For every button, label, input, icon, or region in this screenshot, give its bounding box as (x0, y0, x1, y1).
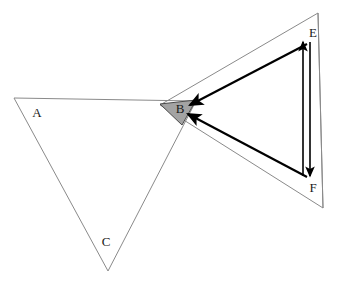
vertex-label-c: C (102, 234, 111, 249)
arrow-f-to-b (188, 114, 307, 177)
vertex-label-b: B (176, 101, 185, 116)
geometry-diagram: A B C E F (0, 0, 337, 286)
vertex-label-a: A (32, 105, 42, 120)
geometry-canvas: A B C E F (0, 0, 337, 286)
vertex-label-f: F (309, 180, 316, 195)
segment-ef-outline (318, 13, 323, 208)
vertex-label-e: E (309, 25, 317, 40)
